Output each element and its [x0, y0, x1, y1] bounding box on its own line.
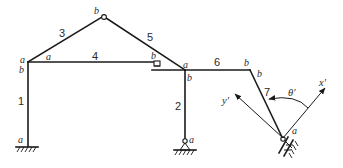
theta-prime-label: θ′ [288, 87, 296, 98]
fixed-support-icon [16, 147, 38, 152]
m4-right-end: b [151, 50, 156, 61]
member-3 [28, 17, 102, 62]
member-2-label: 2 [175, 100, 181, 112]
y-prime-label: y′ [221, 95, 230, 106]
m3-left-end: a [20, 54, 25, 65]
member-6-label: 6 [214, 56, 220, 68]
m2-top-end: b [187, 72, 192, 83]
inclined-roller-support-icon [279, 137, 298, 158]
member-1-label: 1 [18, 95, 24, 107]
apex-hinge-icon [102, 15, 107, 20]
frame-diagram: 1 2 3 4 5 6 7 a b a a b b a b a b b a x′… [0, 0, 343, 168]
m7-bottom-end: a [292, 125, 297, 136]
x-prime-label: x′ [318, 77, 327, 88]
y-prime-axis [235, 94, 283, 138]
apex-end: b [94, 5, 99, 16]
member-7-label: 7 [264, 86, 270, 98]
m1-bottom-end: a [18, 134, 23, 145]
member-7 [250, 70, 282, 137]
m7-top-end: b [257, 68, 262, 79]
m4-left-end: a [46, 51, 51, 62]
m5-right-end: a [183, 59, 188, 70]
m1-top-end: b [19, 64, 24, 75]
member-5-label: 5 [147, 31, 153, 43]
m6-right-end: b [244, 57, 249, 68]
member-4-label: 4 [92, 50, 98, 62]
theta-prime-arc [269, 98, 308, 108]
member-4-end-roller-icon [154, 61, 160, 66]
member-3-label: 3 [59, 27, 65, 39]
m2-bottom-end: a [189, 134, 194, 145]
